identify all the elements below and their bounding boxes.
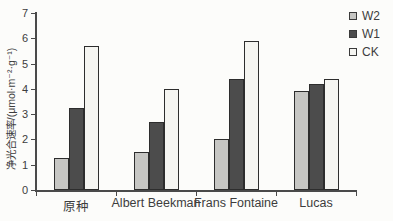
bar-ck-group3 [324,79,339,190]
legend-swatch-ck [349,48,357,56]
bar-ck-group2 [244,41,259,190]
y-tick-label: 5 [6,58,28,70]
bar-chart: 净光合速率/(μmol·m⁻²·g⁻¹) 01234567 原种Albert B… [0,0,393,221]
bar-w2-group1 [134,152,149,190]
y-axis-line [35,12,37,192]
x-category-label: Lucas [256,196,376,210]
y-tick [31,13,35,14]
y-tick-label: 4 [6,83,28,95]
y-tick [31,89,35,90]
legend-swatch-w1 [349,30,357,38]
legend-label: W1 [362,28,380,40]
y-tick-label: 3 [6,108,28,120]
y-tick [31,190,35,191]
legend-label: W2 [362,10,380,22]
bar-ck-group1 [164,89,179,190]
legend-item-ck: CK [349,46,380,58]
legend-swatch-w2 [349,12,357,20]
bar-w2-group2 [214,139,229,190]
bar-w2-group3 [294,91,309,190]
legend-item-w2: W2 [349,10,380,22]
y-tick [31,64,35,65]
bar-ck-group0 [84,46,99,190]
y-tick-label: 0 [6,184,28,196]
legend: W2W1CK [349,10,380,58]
y-tick [31,139,35,140]
bar-w1-group1 [149,122,164,190]
y-tick-label: 6 [6,32,28,44]
y-tick [31,165,35,166]
bar-w1-group3 [309,84,324,190]
legend-label: CK [362,46,379,58]
bar-w1-group0 [69,108,84,190]
y-tick [31,114,35,115]
y-tick-label: 1 [6,159,28,171]
bar-w2-group0 [54,158,69,190]
legend-item-w1: W1 [349,28,380,40]
y-tick-label: 2 [6,133,28,145]
y-tick [31,38,35,39]
y-tick-label: 7 [6,7,28,19]
bar-w1-group2 [229,79,244,190]
